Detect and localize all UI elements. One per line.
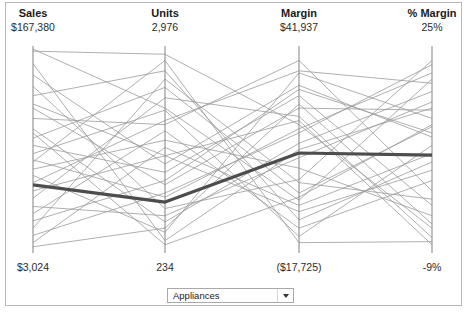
data-line[interactable] <box>33 108 432 185</box>
category-filter-dropdown[interactable]: Appliances <box>167 288 294 303</box>
data-line[interactable] <box>33 71 432 220</box>
axis-header-units: Units 2,976 <box>105 6 225 35</box>
axis-header-pct-margin: % Margin 25% <box>372 6 468 35</box>
axis-header-margin: Margin $41,937 <box>239 6 359 35</box>
data-line[interactable] <box>33 104 432 245</box>
data-line[interactable] <box>33 65 432 236</box>
data-line[interactable] <box>33 104 432 247</box>
axis-max-margin: $41,937 <box>239 20 359 35</box>
axis-min-pct-margin: -9% <box>372 261 468 273</box>
axis-min-units: 234 <box>105 261 225 273</box>
axis-title-units: Units <box>105 6 225 20</box>
axis-header-sales: Sales $167,380 <box>0 6 93 35</box>
axis-min-sales: $3,024 <box>0 261 93 273</box>
data-line[interactable] <box>33 110 432 236</box>
parallel-coordinates-chart-panel: Sales $167,380 Units 2,976 Margin $41,93… <box>0 0 468 313</box>
data-line[interactable] <box>33 75 432 164</box>
axis-title-margin: Margin <box>239 6 359 20</box>
axis-max-pct-margin: 25% <box>372 20 468 35</box>
axis-title-pct-margin: % Margin <box>372 6 468 20</box>
axis-title-sales: Sales <box>0 6 93 20</box>
chevron-down-icon[interactable] <box>277 289 293 302</box>
category-filter-value: Appliances <box>168 289 277 302</box>
axis-max-units: 2,976 <box>105 20 225 35</box>
axis-min-margin: ($17,725) <box>239 261 359 273</box>
data-line[interactable] <box>33 102 432 216</box>
axis-max-sales: $167,380 <box>0 20 93 35</box>
